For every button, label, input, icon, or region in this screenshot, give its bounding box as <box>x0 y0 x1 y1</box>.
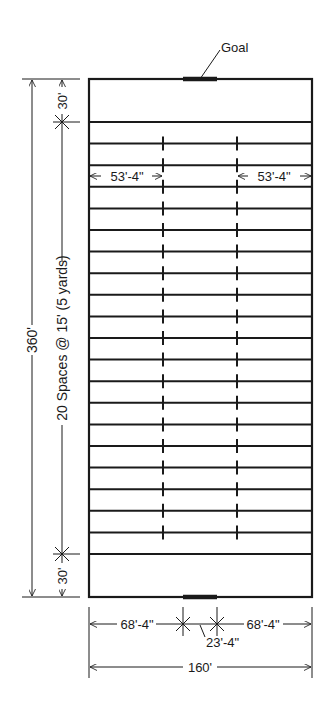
yard-lines <box>89 122 312 554</box>
bottom-right-label: 68'-4" <box>246 617 280 632</box>
end-zone-top-label: 30' <box>55 93 70 110</box>
goal-leader <box>200 50 220 79</box>
overall-width-label: 160' <box>188 660 212 675</box>
overall-length-label: 360' <box>24 327 40 353</box>
bottom-left-label: 68'-4" <box>120 617 154 632</box>
hash-right-label: 53'-4" <box>257 169 291 184</box>
end-zone-bottom-label: 30' <box>55 568 70 585</box>
goal-width-label: 23'-4" <box>206 635 240 650</box>
football-field-diagram: Goal 360' 30' 20 Spaces @ 15' (5 yards) … <box>0 0 331 715</box>
goal-label: Goal <box>221 40 249 55</box>
spaces-label: 20 Spaces @ 15' (5 yards) <box>54 255 70 421</box>
hash-left-label: 53'-4" <box>110 169 144 184</box>
